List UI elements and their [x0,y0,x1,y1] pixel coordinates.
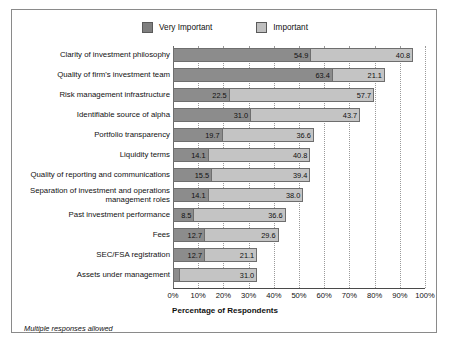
bar-value-label: 36.6 [268,210,282,221]
bar-segment-very-important: 63.4 [173,68,333,82]
bar-row: 22.557.7 [173,88,425,102]
bar-segment-important: 21.1 [332,68,385,82]
bar-value-label: 39.4 [293,170,307,181]
bar-value-label: 40.8 [293,150,307,161]
plot-area: 54.940.863.421.122.557.731.043.719.736.6… [173,46,425,288]
x-tick-label: 90% [392,291,407,300]
bar-segment-very-important: 12.7 [173,228,205,242]
bar-segment-important: 39.4 [211,168,310,182]
legend-swatch-icon [256,22,267,33]
x-axis-line [173,288,425,289]
category-label: Risk management infrastructure [20,90,170,99]
bar-value-label: 54.9 [294,50,308,61]
bar-value-label: 29.6 [261,230,275,241]
bar-segment-important: 36.6 [193,208,285,222]
legend-item-label: Very Important [159,23,212,32]
bar-value-label: 12.7 [188,250,202,261]
x-tick-label: 80% [367,291,382,300]
category-label: Quality of reporting and communications [20,170,170,179]
bar-value-label: 31.0 [234,110,248,121]
bar-value-label: 63.4 [315,70,329,81]
bar-segment-very-important: 14.1 [173,148,209,162]
legend-item-label: Important [273,23,308,32]
bar-segment-very-important: 54.9 [173,48,311,62]
bar-value-label: 40.8 [396,50,410,61]
bar-row: 31.043.7 [173,108,425,122]
x-tick-label: 50% [291,291,306,300]
bar-segment-very-important: 19.7 [173,128,223,142]
bar-row: 12.721.1 [173,248,425,262]
bar-segment-very-important: 31.0 [173,108,251,122]
bar-row: 14.138.0 [173,188,425,202]
bar-segment-very-important: 22.5 [173,88,230,102]
bar-rows: 54.940.863.421.122.557.731.043.719.736.6… [173,46,425,288]
category-label: Quality of firm's investment team [20,70,170,79]
category-label: Liquidity terms [20,150,170,159]
bar-value-label: 8.5 [181,210,191,221]
bar-row: 31.0 [173,268,425,282]
bar-row: 54.940.8 [173,48,425,62]
legend-swatch-icon [142,22,153,33]
bar-segment-important: 36.6 [222,128,314,142]
category-axis-labels: Clarity of investment philosophyQuality … [20,46,170,288]
x-tick-label: 40% [266,291,281,300]
bar-value-label: 12.7 [188,230,202,241]
bar-segment-very-important: 12.7 [173,248,205,262]
bar-row: 8.536.6 [173,208,425,222]
bar-value-label: 38.0 [286,190,300,201]
bar-value-label: 31.0 [240,270,254,281]
bar-row: 15.539.4 [173,168,425,182]
bar-segment-very-important: 14.1 [173,188,209,202]
x-tick-label: 0% [168,291,179,300]
category-label: Portfolio transparency [20,130,170,139]
bar-value-label: 14.1 [191,150,205,161]
bar-row: 12.729.6 [173,228,425,242]
bar-segment-very-important: 15.5 [173,168,212,182]
gridline-100 [425,46,426,288]
bar-value-label: 19.7 [205,130,219,141]
bar-segment-important: 31.0 [179,268,257,282]
x-tick-label: 20% [216,291,231,300]
x-axis-title: Percentage of Respondents [12,306,438,315]
category-label: Identifiable source of alpha [20,110,170,119]
bar-segment-important: 21.1 [204,248,257,262]
bar-value-label: 21.1 [368,70,382,81]
bar-segment-important: 29.6 [204,228,279,242]
chart-footnote: Multiple responses allowed [24,324,113,333]
bar-segment-important: 38.0 [208,188,304,202]
bar-value-label: 14.1 [191,190,205,201]
category-label: Fees [20,230,170,239]
legend-item-important: Important [256,22,308,33]
category-label: SEC/FSA registration [20,250,170,259]
x-axis-tick-labels: 0%10%20%30%40%50%60%70%80%90%100% [173,291,425,303]
bar-segment-important: 57.7 [229,88,374,102]
bar-row: 19.736.6 [173,128,425,142]
bar-value-label: 15.5 [195,170,209,181]
x-tick-label: 70% [342,291,357,300]
bar-row: 63.421.1 [173,68,425,82]
bar-value-label: 36.6 [296,130,310,141]
category-label: Clarity of investment philosophy [20,50,170,59]
bar-value-label: 22.5 [212,90,226,101]
category-label: Assets under management [20,270,170,279]
bar-segment-important: 43.7 [250,108,360,122]
category-label: Separation of investment and operations … [20,186,170,205]
x-tick-label: 30% [241,291,256,300]
bar-value-label: 57.7 [357,90,371,101]
x-tick-label: 60% [317,291,332,300]
x-tick-label: 10% [191,291,206,300]
legend-item-very-important: Very Important [142,22,212,33]
bar-value-label: 43.7 [343,110,357,121]
bar-segment-very-important: 8.5 [173,208,194,222]
bar-row: 14.140.8 [173,148,425,162]
bar-segment-important: 40.8 [208,148,311,162]
chart-frame: Very ImportantImportant Clarity of inves… [11,9,437,333]
bar-value-label: 21.1 [240,250,254,261]
category-label: Past investment performance [20,210,170,219]
bar-segment-important: 40.8 [310,48,413,62]
chart-legend: Very ImportantImportant [12,19,438,35]
x-tick-label: 100% [415,291,434,300]
